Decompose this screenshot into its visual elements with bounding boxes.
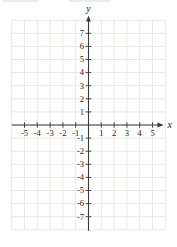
y-tick-label: -4 bbox=[77, 172, 85, 182]
y-axis-name: y bbox=[85, 3, 91, 14]
cartesian-grid: -5-4-3-2-1123457654321-1-2-3-4-5-6-7 y x bbox=[0, 0, 177, 247]
coordinate-plane-figure: -5-4-3-2-1123457654321-1-2-3-4-5-6-7 y x bbox=[0, 0, 177, 247]
y-axis-arrowhead bbox=[86, 16, 91, 22]
y-tick-label: 2 bbox=[80, 94, 84, 104]
x-tick-label: 2 bbox=[112, 128, 116, 138]
x-tick-label: 5 bbox=[150, 128, 154, 138]
y-tick-label: -2 bbox=[77, 146, 84, 156]
y-tick-label: 5 bbox=[80, 54, 84, 64]
y-tick-label: 6 bbox=[80, 41, 84, 51]
x-tick-label: -2 bbox=[59, 128, 66, 138]
y-tick-label: -3 bbox=[77, 159, 84, 169]
x-tick-label: -3 bbox=[47, 128, 54, 138]
x-axis-name: x bbox=[167, 119, 173, 130]
x-tick-label: 1 bbox=[99, 128, 103, 138]
y-tick-label: -7 bbox=[77, 212, 84, 222]
y-tick-label: -5 bbox=[77, 185, 84, 195]
y-tick-label: 3 bbox=[80, 81, 84, 91]
x-tick-label: 4 bbox=[138, 128, 143, 138]
x-axis-arrowhead bbox=[158, 123, 164, 128]
y-tick-label: -6 bbox=[77, 198, 84, 208]
y-tick-label: -1 bbox=[77, 133, 84, 143]
axes bbox=[12, 16, 164, 231]
x-tick-label: -5 bbox=[21, 128, 28, 138]
y-tick-label: 7 bbox=[80, 28, 84, 38]
x-tick-label: 3 bbox=[125, 128, 129, 138]
x-tick-label: -4 bbox=[34, 128, 42, 138]
y-tick-label: 1 bbox=[80, 107, 84, 117]
